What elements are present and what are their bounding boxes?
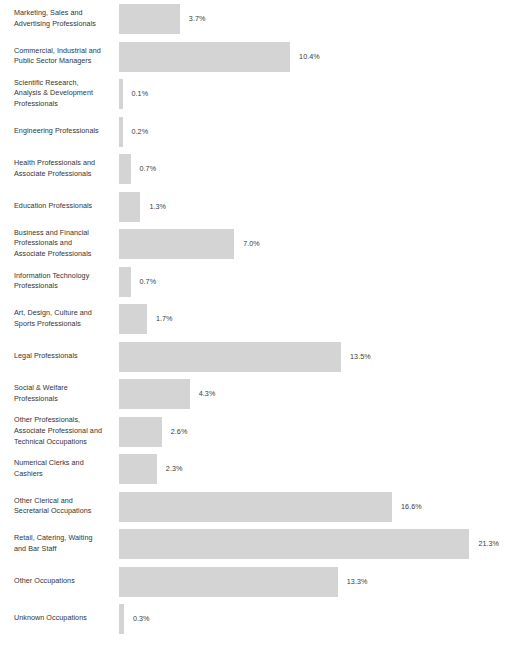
bar-value-label: 13.5%: [350, 352, 371, 362]
category-label: Information Technology Professionals: [14, 271, 114, 292]
bar-row: Art, Design, Culture and Sports Professi…: [0, 300, 517, 338]
category-label: Marketing, Sales and Advertising Profess…: [14, 8, 114, 29]
bar-track: 16.6%: [119, 492, 517, 522]
bar-track: 21.3%: [119, 529, 517, 559]
bar-row: Retail, Catering, Waiting and Bar Staff2…: [0, 525, 517, 563]
bar-row: Scientific Research, Analysis & Developm…: [0, 75, 517, 113]
bar-row: Information Technology Professionals0.7%: [0, 263, 517, 301]
chart-rows-container: Marketing, Sales and Advertising Profess…: [0, 0, 517, 638]
category-label: Health Professionals and Associate Profe…: [14, 158, 114, 179]
bar-value-label: 0.3%: [133, 614, 150, 624]
category-label: Legal Professionals: [14, 351, 114, 362]
bar-value-label: 0.7%: [140, 277, 157, 287]
bar-value-label: 21.3%: [478, 539, 499, 549]
bar-track: 0.2%: [119, 117, 517, 147]
bar-track: 2.3%: [119, 454, 517, 484]
bar-value-label: 16.6%: [401, 502, 422, 512]
bar: [119, 417, 162, 447]
horizontal-bar-chart: Marketing, Sales and Advertising Profess…: [0, 0, 517, 648]
bar: [119, 267, 131, 297]
bar: [119, 117, 123, 147]
bar: [119, 379, 190, 409]
bar: [119, 192, 140, 222]
category-label: Other Professionals, Associate Professio…: [14, 415, 114, 447]
bar-value-label: 7.0%: [243, 239, 260, 249]
bar-value-label: 0.2%: [132, 127, 149, 137]
category-label: Education Professionals: [14, 201, 114, 212]
bar: [119, 604, 124, 634]
bar-track: 0.3%: [119, 604, 517, 634]
bar-value-label: 1.7%: [156, 314, 173, 324]
bar-row: Legal Professionals13.5%: [0, 338, 517, 376]
bar: [119, 229, 234, 259]
category-label: Art, Design, Culture and Sports Professi…: [14, 308, 114, 329]
bar-value-label: 0.7%: [140, 164, 157, 174]
bar-track: 1.3%: [119, 192, 517, 222]
bar-track: 7.0%: [119, 229, 517, 259]
bar: [119, 304, 147, 334]
bar-track: 13.3%: [119, 567, 517, 597]
bar-track: 2.6%: [119, 417, 517, 447]
bar-value-label: 2.6%: [171, 427, 188, 437]
bar-value-label: 10.4%: [299, 52, 320, 62]
bar-row: Engineering Professionals0.2%: [0, 113, 517, 151]
bar-value-label: 0.1%: [132, 89, 149, 99]
bar-track: 4.3%: [119, 379, 517, 409]
bar-track: 3.7%: [119, 4, 517, 34]
category-label: Social & Welfare Professionals: [14, 383, 114, 404]
bar-row: Social & Welfare Professionals4.3%: [0, 375, 517, 413]
category-label: Other Clerical and Secretarial Occupatio…: [14, 496, 114, 517]
category-label: Scientific Research, Analysis & Developm…: [14, 78, 114, 110]
bar-row: Marketing, Sales and Advertising Profess…: [0, 0, 517, 38]
bar-row: Business and Financial Professionals and…: [0, 225, 517, 263]
category-label: Other Occupations: [14, 576, 114, 587]
bar-row: Other Clerical and Secretarial Occupatio…: [0, 488, 517, 526]
category-label: Engineering Professionals: [14, 126, 114, 137]
bar: [119, 154, 131, 184]
bar: [119, 492, 392, 522]
category-label: Unknown Occupations: [14, 613, 114, 624]
bar-row: Education Professionals1.3%: [0, 188, 517, 226]
bar-track: 0.7%: [119, 267, 517, 297]
bar-value-label: 2.3%: [166, 464, 183, 474]
bar-row: Commercial, Industrial and Public Sector…: [0, 38, 517, 76]
bar-track: 10.4%: [119, 42, 517, 72]
bar-track: 13.5%: [119, 342, 517, 372]
bar-row: Unknown Occupations0.3%: [0, 600, 517, 638]
category-label: Commercial, Industrial and Public Sector…: [14, 46, 114, 67]
bar-track: 1.7%: [119, 304, 517, 334]
bar-row: Other Professionals, Associate Professio…: [0, 413, 517, 451]
bar-row: Health Professionals and Associate Profe…: [0, 150, 517, 188]
bar-value-label: 13.3%: [347, 577, 368, 587]
bar-value-label: 4.3%: [199, 389, 216, 399]
bar-row: Other Occupations13.3%: [0, 563, 517, 601]
bar: [119, 79, 123, 109]
bar: [119, 4, 180, 34]
category-label: Numerical Clerks and Cashiers: [14, 458, 114, 479]
bar-value-label: 3.7%: [189, 14, 206, 24]
bar-value-label: 1.3%: [149, 202, 166, 212]
bar-track: 0.1%: [119, 79, 517, 109]
bar-row: Numerical Clerks and Cashiers2.3%: [0, 450, 517, 488]
bar: [119, 567, 338, 597]
bar: [119, 342, 341, 372]
category-label: Retail, Catering, Waiting and Bar Staff: [14, 533, 114, 554]
bar: [119, 42, 290, 72]
category-label: Business and Financial Professionals and…: [14, 228, 114, 260]
bar: [119, 529, 469, 559]
bar: [119, 454, 157, 484]
bar-track: 0.7%: [119, 154, 517, 184]
